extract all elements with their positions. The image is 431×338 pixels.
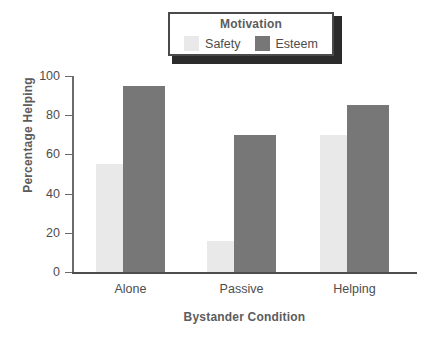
y-tick-mark (65, 76, 72, 77)
legend-label-safety: Safety (205, 37, 240, 51)
y-tick-mark (65, 272, 72, 273)
y-tick-label: 20 (18, 226, 60, 240)
x-axis-title: Bystander Condition (72, 310, 417, 324)
x-category-label-helping: Helping (310, 282, 400, 296)
legend-entries: Safety Esteem (170, 36, 332, 51)
bar-alone-safety[interactable] (96, 164, 123, 272)
x-axis-line (72, 272, 417, 274)
legend-entry-safety[interactable]: Safety (184, 36, 240, 51)
bar-passive-safety[interactable] (207, 241, 234, 272)
x-category-label-passive: Passive (197, 282, 287, 296)
y-tick-label: 0 (18, 265, 60, 279)
chart-legend: Motivation Safety Esteem (168, 12, 334, 56)
y-tick-mark (65, 233, 72, 234)
y-tick-mark (65, 154, 72, 155)
bar-helping-esteem[interactable] (347, 105, 389, 272)
legend-swatch-esteem (255, 36, 270, 51)
legend-label-esteem: Esteem (276, 37, 318, 51)
bar-chart: Motivation Safety Esteem 020406080100 Pe… (0, 0, 431, 338)
bar-passive-esteem[interactable] (234, 135, 276, 272)
x-category-label-alone: Alone (86, 282, 176, 296)
y-tick-mark (65, 115, 72, 116)
plot-area (72, 76, 417, 272)
bar-alone-esteem[interactable] (123, 86, 165, 272)
legend-swatch-safety (184, 36, 199, 51)
bar-helping-safety[interactable] (320, 135, 347, 272)
legend-title: Motivation (170, 17, 332, 31)
y-tick-mark (65, 194, 72, 195)
legend-entry-esteem[interactable]: Esteem (255, 36, 318, 51)
y-axis-title: Percentage Helping (21, 55, 35, 215)
